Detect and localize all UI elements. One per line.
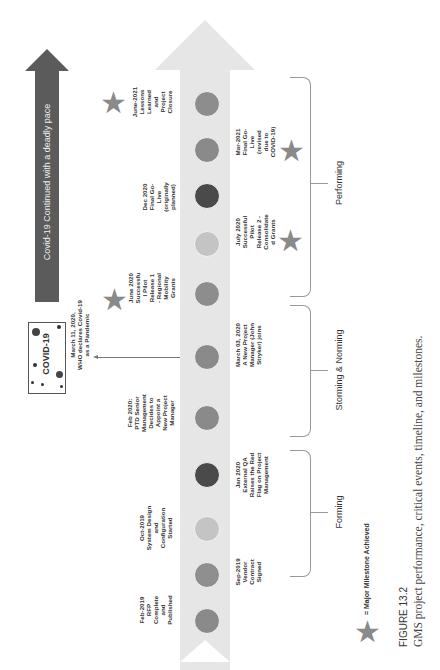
event-label-jun-2021: June-2021 Lessons Learned and Project Cl… [131,74,173,130]
event-circle-mar-2021 [194,137,220,163]
legend-star-icon: ★ [354,617,381,647]
event-circle-oct-2019 [194,516,220,542]
event-label-jan-2020: Jan 2020 External QA Raises the Red Flag… [234,442,269,508]
covid-arrow-head [25,49,69,71]
phase-label-performing: Performing [333,151,345,215]
star-icon-jun-2020: ★ [101,285,128,315]
figure-number: FIGURE 13.2 [397,527,411,647]
who-pandemic-label: March 11, 2020, WHO declares Covid-19 as… [69,295,90,375]
event-label-jul-2020: July 2020 Successful Pilot Release 2 - C… [234,202,276,262]
covid-19-box-label: COVID-19 [40,326,52,382]
event-label-dec-2020: Dec 2020 Final Go- Live (originally plan… [141,169,176,225]
event-label-jun-2020: June 2020 Successfu l Pilot Release 1 - … [127,256,176,320]
event-circle-jun-2021 [194,91,220,117]
event-circle-feb-2019 [194,608,220,634]
event-circle-sep-2019 [194,562,220,588]
event-label-sep-2019: Sep-2019 Vendor Contract Signed [234,544,262,600]
legend-label: = Major Milestone Achieved [362,465,372,615]
star-icon-jun-2021: ★ [100,88,127,118]
event-circle-dec-2020 [194,183,220,209]
brace-performing-tip [310,183,328,184]
phase-label-storming-norming: Storming & Norming [333,320,345,420]
event-label-feb-2019: Feb-2019 RFP Complete and Published [138,580,173,640]
event-label-feb-2020: Feb 2020: PTD Senior Management Decides … [126,381,175,445]
event-label-oct-2019: Oct-2019 System Design and Configuration… [138,498,173,558]
brace-forming [290,450,311,577]
event-circle-jan-2020 [194,462,220,488]
brace-storming-norming [290,305,311,437]
brace-storming-tip [310,370,328,371]
covid-arrow-label: Covid-19 Continued with a deadly pace [41,72,53,292]
timeline-arrow-tail-notch [180,640,230,662]
event-circle-jun-2020 [194,281,220,307]
who-connector-arrowhead [93,355,98,359]
figure-caption: GMS project performance, critical events… [411,187,425,647]
event-circle-feb-2020 [194,405,220,431]
timeline-arrow-head [155,20,255,70]
event-label-mar-2021: Mar-2021 Final Go- Live (revised due to … [234,114,276,170]
event-circle-jul-2020 [194,231,220,257]
phase-label-forming: Forming [333,479,345,545]
brace-performing [290,77,311,297]
brace-forming-tip [310,512,328,513]
event-circle-mar-2020 [194,344,220,370]
event-label-mar-2020: March 03, 2020 A New Project Manager (Jo… [234,310,262,380]
